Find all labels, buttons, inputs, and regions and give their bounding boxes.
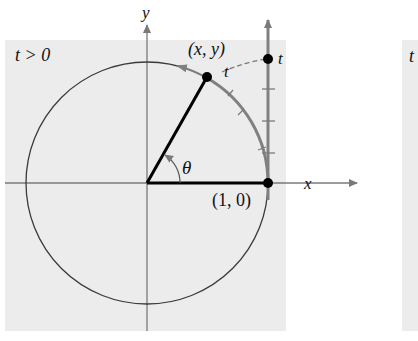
condition-label: t > 0 [15,46,50,64]
point-1-0-label: (1, 0) [212,191,251,209]
radius-to-xy [147,77,207,183]
point-xy [202,72,212,82]
y-axis-label: y [142,4,150,21]
point-1-0 [263,178,273,188]
arc-length-label: t [224,63,229,80]
x-axis-label: x [304,175,312,192]
theta-label: θ [182,158,191,177]
t-line-label: t [278,50,283,67]
second-panel-label: t [409,47,414,65]
point-xy-label: (x, y) [188,40,225,58]
point-t [263,54,273,64]
arc-length-t [207,78,268,183]
theta-arc [165,155,180,183]
